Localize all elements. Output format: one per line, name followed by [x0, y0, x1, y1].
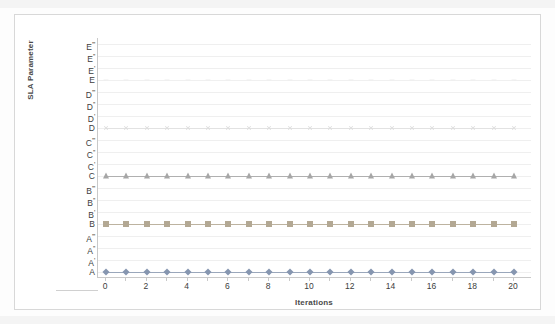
y-tick-label-Dpp: D'' — [55, 100, 95, 113]
y-tick-label-App: A'' — [55, 244, 95, 257]
gridline — [98, 176, 531, 177]
gridline — [98, 140, 531, 141]
scan-edge-top — [0, 0, 555, 8]
gridline — [98, 56, 531, 57]
gridline — [98, 92, 531, 93]
y-tick-label-Bppp: B''' — [55, 184, 95, 197]
gridline — [98, 248, 531, 249]
x-tick-mark — [187, 278, 188, 281]
y-tick-label-Dp: D' — [55, 112, 95, 125]
x-axis-tick-labels: 02468101214161820 — [97, 281, 531, 297]
y-tick-label-Cppp: C''' — [55, 136, 95, 149]
y-tick-label-Ep: E' — [55, 64, 95, 77]
x-tick-mark — [431, 278, 432, 281]
x-tick-label-4: 4 — [184, 281, 189, 291]
y-tick-label-D: D — [55, 124, 95, 133]
x-tick-label-18: 18 — [467, 281, 476, 291]
x-tick-mark — [493, 278, 494, 281]
x-tick-mark — [105, 278, 106, 281]
plot-area — [97, 38, 531, 278]
x-tick-mark — [411, 278, 412, 281]
series-layer — [98, 38, 531, 277]
chart-page: SLA Parameter AA'A''A'''BB'B''B'''CC'C''… — [0, 0, 555, 324]
y-tick-label-Ap: A' — [55, 256, 95, 269]
x-tick-mark — [268, 278, 269, 281]
gridline — [98, 236, 531, 237]
gridline — [98, 164, 531, 165]
x-tick-mark — [207, 278, 208, 281]
x-tick-label-12: 12 — [345, 281, 354, 291]
x-tick-mark — [370, 278, 371, 281]
y-tick-label-Cpp: C'' — [55, 148, 95, 161]
gridline — [98, 260, 531, 261]
gridline — [98, 212, 531, 213]
y-tick-label-Epp: E'' — [55, 52, 95, 65]
x-tick-label-10: 10 — [304, 281, 313, 291]
y-tick-label-A: A — [55, 268, 95, 277]
x-tick-label-2: 2 — [143, 281, 148, 291]
axis-underline — [56, 290, 98, 291]
x-tick-mark — [329, 278, 330, 281]
x-tick-label-0: 0 — [103, 281, 108, 291]
x-tick-mark — [309, 278, 310, 281]
x-tick-mark — [289, 278, 290, 281]
y-tick-label-C: C — [55, 172, 95, 181]
y-tick-label-Dppp: D''' — [55, 88, 95, 101]
gridline — [98, 272, 531, 273]
y-tick-label-E: E — [55, 76, 95, 85]
gridline — [98, 200, 531, 201]
x-tick-mark — [166, 278, 167, 281]
y-axis-tick-labels: AA'A''A'''BB'B''B'''CC'C''C'''DD'D''D'''… — [55, 38, 95, 278]
y-tick-label-Appp: A''' — [55, 232, 95, 245]
y-tick-label-Bpp: B'' — [55, 196, 95, 209]
x-tick-label-16: 16 — [427, 281, 436, 291]
x-axis-title: Iterations — [97, 298, 531, 307]
x-tick-label-14: 14 — [386, 281, 395, 291]
gridline — [98, 68, 531, 69]
x-tick-mark — [227, 278, 228, 281]
scan-edge-bottom — [0, 316, 555, 324]
y-tick-label-Eppp: E''' — [55, 40, 95, 53]
x-tick-mark — [146, 278, 147, 281]
gridline — [98, 104, 531, 105]
x-tick-mark — [125, 278, 126, 281]
x-tick-mark — [513, 278, 514, 281]
x-tick-mark — [472, 278, 473, 281]
y-tick-label-Bp: B' — [55, 208, 95, 221]
x-tick-label-8: 8 — [266, 281, 271, 291]
x-tick-mark — [248, 278, 249, 281]
gridline — [98, 116, 531, 117]
y-tick-label-B: B — [55, 220, 95, 229]
x-tick-label-6: 6 — [225, 281, 230, 291]
x-tick-mark — [350, 278, 351, 281]
gridline — [98, 152, 531, 153]
y-tick-label-Cp: C' — [55, 160, 95, 173]
gridline — [98, 44, 531, 45]
gridline — [98, 80, 531, 81]
gridline — [98, 224, 531, 225]
x-tick-mark — [391, 278, 392, 281]
y-axis-title: SLA Parameter — [26, 10, 35, 130]
x-tick-mark — [452, 278, 453, 281]
gridline — [98, 188, 531, 189]
x-tick-label-20: 20 — [508, 281, 517, 291]
gridline — [98, 128, 531, 129]
